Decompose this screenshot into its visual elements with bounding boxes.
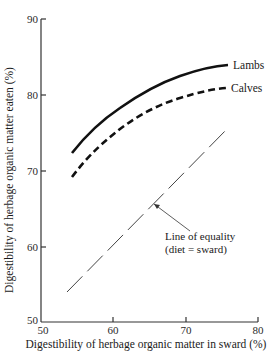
y-axis-label: Digestibility of herbage organic matter …: [3, 67, 16, 293]
annotation-line-1: Line of equality: [165, 230, 236, 242]
x-tick-label: 50: [38, 324, 50, 336]
equality-line: [67, 128, 228, 292]
annotation-pointer: [154, 204, 190, 231]
x-axis-label: Digestibility of herbage organic matter …: [26, 338, 267, 351]
y-tick-label: 80: [27, 89, 39, 101]
x-tick-label: 70: [181, 324, 193, 336]
calves-label: Calves: [231, 82, 263, 94]
y-tick-label: 70: [27, 165, 39, 177]
y-tick-label: 60: [27, 241, 39, 253]
x-tick-label: 80: [253, 324, 265, 336]
annotation-line-2: (diet = sward): [165, 243, 227, 256]
y-tick-label: 90: [27, 13, 39, 25]
lambs-label: Lambs: [233, 59, 265, 71]
chart: 90 80 70 60 50 50 60 70 80 Digestibility…: [0, 0, 276, 354]
x-tick-label: 60: [108, 324, 120, 336]
calves-line: [72, 88, 226, 177]
